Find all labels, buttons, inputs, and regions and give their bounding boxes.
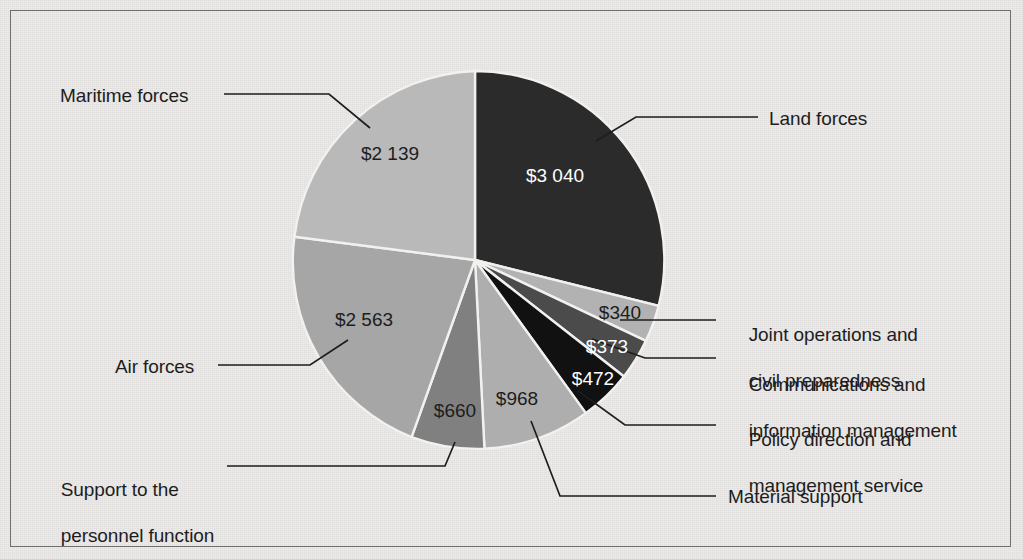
value-label-policy-direction: $472 <box>572 368 614 389</box>
value-label-maritime-forces: $2 139 <box>361 143 419 164</box>
pie-slices <box>293 71 665 449</box>
chart-page: $3 040 $2 139 $2 563 $660 $968 $472 $373… <box>0 0 1023 559</box>
label-communications-line1: Communications and <box>749 374 926 395</box>
value-label-land-forces: $3 040 <box>526 165 584 186</box>
value-label-air-forces: $2 563 <box>335 309 393 330</box>
label-joint-operations-line1: Joint operations and <box>749 324 918 345</box>
label-material-support: Material support <box>728 485 863 508</box>
pie-slice-maritime-forces[interactable] <box>294 71 475 260</box>
value-label-material-support: $968 <box>496 388 538 409</box>
label-support-personnel-line2: personnel function <box>61 525 214 546</box>
label-policy-direction-line1: Policy direction and <box>749 429 912 450</box>
value-label-support-personnel: $660 <box>434 400 476 421</box>
leader-line-maritime-forces <box>224 94 370 128</box>
label-maritime-forces: Maritime forces <box>60 84 188 107</box>
label-land-forces: Land forces <box>769 107 867 130</box>
leader-line-material-support <box>531 421 716 496</box>
label-air-forces: Air forces <box>115 355 194 378</box>
leader-line-support-personnel <box>227 442 455 466</box>
label-support-personnel-line1: Support to the <box>61 479 179 500</box>
value-label-communications: $373 <box>586 336 628 357</box>
label-support-personnel: Support to the personnel function <box>40 455 214 559</box>
value-label-joint-operations: $340 <box>599 302 641 323</box>
